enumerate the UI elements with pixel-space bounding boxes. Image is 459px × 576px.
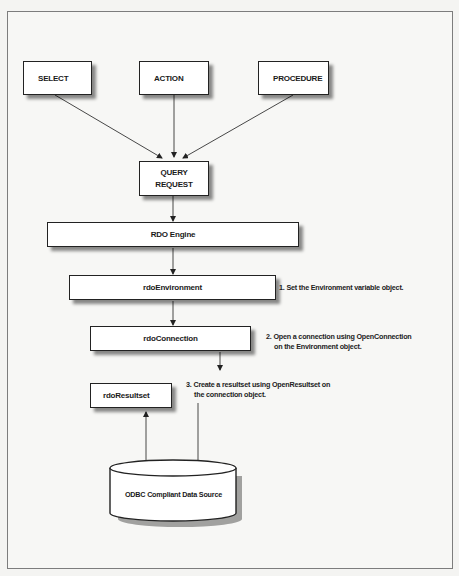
note-step-2: 2. Open a connection using OpenConnectio… bbox=[266, 332, 412, 352]
query-request-line1: QUERY bbox=[160, 167, 187, 179]
action-box: ACTION bbox=[139, 61, 209, 95]
rdo-connection-box: rdoConnection bbox=[90, 326, 251, 351]
action-label: ACTION bbox=[154, 74, 183, 83]
data-source-label: ODBC Compliant Data Source bbox=[110, 490, 237, 499]
rdo-resultset-box: rdoResultset bbox=[90, 383, 172, 408]
rdo-engine-label: RDO Engine bbox=[151, 230, 196, 239]
rdo-engine-box: RDO Engine bbox=[47, 222, 299, 247]
arrow-procedure-to-query bbox=[183, 95, 293, 158]
query-request-box: QUERY REQUEST bbox=[139, 161, 209, 196]
query-request-line2: REQUEST bbox=[155, 179, 192, 191]
procedure-label: PROCEDURE bbox=[273, 74, 322, 83]
note-step-1: 1. Set the Environment variable object. bbox=[279, 283, 403, 293]
rdo-environment-label: rdoEnvironment bbox=[143, 283, 202, 292]
rdo-resultset-label: rdoResultset bbox=[103, 391, 150, 400]
select-label: SELECT bbox=[38, 74, 68, 83]
select-box: SELECT bbox=[23, 61, 92, 95]
note-step-3: 3. Create a resultset using OpenResultse… bbox=[186, 380, 330, 400]
arrow-select-to-query bbox=[55, 95, 162, 158]
rdo-environment-box: rdoEnvironment bbox=[69, 275, 276, 300]
procedure-box: PROCEDURE bbox=[258, 61, 329, 95]
rdo-connection-label: rdoConnection bbox=[143, 334, 197, 343]
